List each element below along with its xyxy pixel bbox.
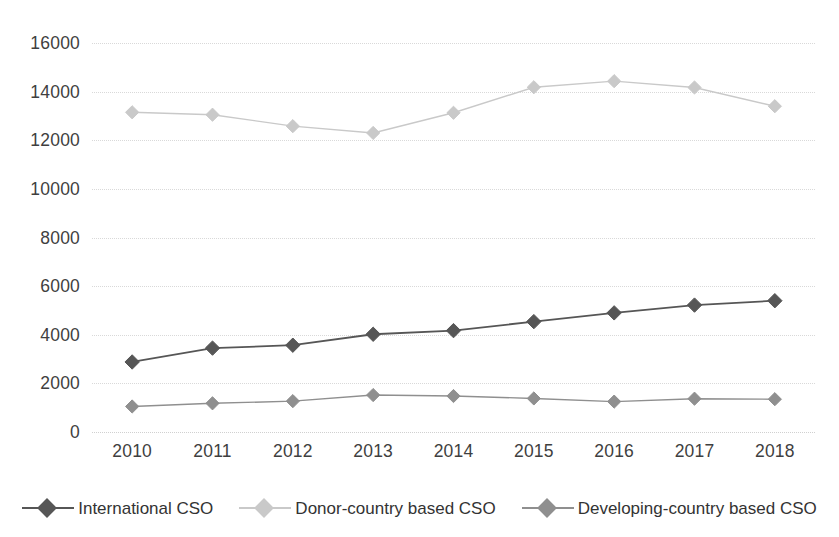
y-tick-label-8000: 8000 [40,227,80,248]
x-tick-label-2018: 2018 [755,441,795,462]
y-tick-label-4000: 4000 [40,324,80,345]
legend-item-label: Developing-country based CSO [578,500,817,517]
x-tick-label-2010: 2010 [112,441,152,462]
gridline-8000 [92,238,815,239]
legend-diamond-icon [254,498,274,518]
legend-swatch-icon [22,500,74,516]
legend-item-label: International CSO [78,500,213,517]
x-axis: 201020112012201320142015201620172018 [92,441,815,471]
legend-swatch-icon [522,500,574,516]
y-tick-label-10000: 10000 [30,178,80,199]
x-tick-label-2015: 2015 [514,441,554,462]
gridline-14000 [92,92,815,93]
plot-area [92,43,815,432]
legend-item-international-cso[interactable]: International CSO [22,500,213,517]
gridline-4000 [92,335,815,336]
x-tick-label-2013: 2013 [353,441,393,462]
legend-diamond-icon [537,498,557,518]
legend-swatch-icon [239,500,291,516]
gridline-2000 [92,383,815,384]
gridline-0 [92,432,815,433]
y-tick-label-0: 0 [70,422,80,443]
legend-diamond-icon [37,498,57,518]
legend-item-donor-country-based-cso[interactable]: Donor-country based CSO [239,500,495,517]
y-tick-label-12000: 12000 [30,130,80,151]
gridline-16000 [92,43,815,44]
y-tick-label-16000: 16000 [30,33,80,54]
y-tick-label-6000: 6000 [40,276,80,297]
y-tick-label-2000: 2000 [40,373,80,394]
gridline-6000 [92,286,815,287]
x-tick-label-2012: 2012 [273,441,313,462]
x-tick-label-2017: 2017 [675,441,715,462]
gridline-10000 [92,189,815,190]
legend-item-developing-country-based-cso[interactable]: Developing-country based CSO [522,500,817,517]
x-tick-label-2011: 2011 [193,441,231,462]
x-tick-label-2014: 2014 [434,441,474,462]
chart-legend: International CSODonor-country based CSO… [0,492,839,524]
legend-item-label: Donor-country based CSO [295,500,495,517]
x-tick-label-2016: 2016 [594,441,634,462]
line-chart: 0200040006000800010000120001400016000 20… [0,0,839,537]
y-axis: 0200040006000800010000120001400016000 [0,43,80,432]
y-tick-label-14000: 14000 [30,81,80,102]
gridline-12000 [92,140,815,141]
